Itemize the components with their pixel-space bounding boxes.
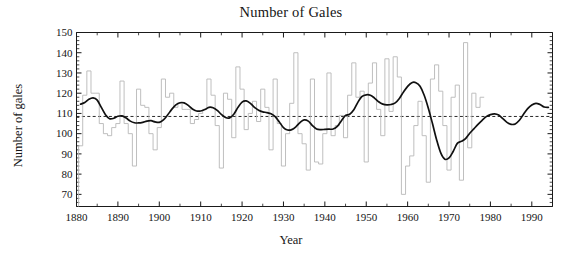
svg-text:1980: 1980 <box>479 211 502 223</box>
svg-text:1990: 1990 <box>521 211 544 223</box>
svg-text:1950: 1950 <box>355 211 378 223</box>
svg-text:150: 150 <box>56 26 73 38</box>
svg-text:100: 100 <box>56 127 73 139</box>
svg-text:1890: 1890 <box>107 211 130 223</box>
svg-text:120: 120 <box>56 87 73 99</box>
svg-text:130: 130 <box>56 67 73 79</box>
svg-text:1920: 1920 <box>231 211 254 223</box>
svg-text:1940: 1940 <box>314 211 337 223</box>
svg-text:90: 90 <box>62 148 74 160</box>
svg-text:140: 140 <box>56 47 73 59</box>
gales-chart-figure: Number of Gales Number of gales Year 708… <box>0 0 582 261</box>
svg-text:1880: 1880 <box>66 211 89 223</box>
svg-text:1960: 1960 <box>397 211 420 223</box>
svg-text:80: 80 <box>62 168 74 180</box>
svg-text:70: 70 <box>62 188 74 200</box>
svg-text:1970: 1970 <box>438 211 461 223</box>
svg-text:1900: 1900 <box>148 211 171 223</box>
svg-text:1930: 1930 <box>272 211 295 223</box>
svg-text:110: 110 <box>56 107 73 119</box>
tick-labels: 7080901001101201301401501880189019001910… <box>56 26 543 222</box>
svg-text:1910: 1910 <box>190 211 213 223</box>
plot-area: 7080901001101201301401501880189019001910… <box>0 0 582 261</box>
